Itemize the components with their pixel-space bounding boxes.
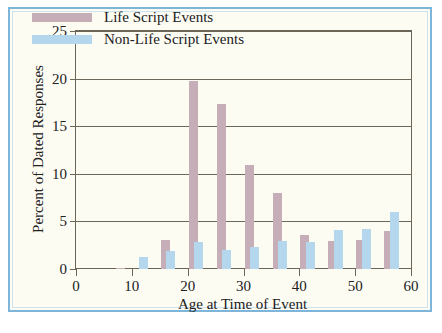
x-tick-label-60: 60	[404, 278, 419, 295]
legend-label-life: Life Script Events	[104, 9, 213, 26]
x-tick-10	[132, 269, 133, 276]
y-tick-label-0: 0	[60, 261, 68, 278]
legend-label-nonlife: Non-Life Script Events	[104, 31, 244, 48]
y-tick-10	[70, 174, 76, 175]
y-axis-title: Percent of Dated Responses	[30, 49, 47, 249]
legend-swatch-icon-life	[32, 13, 92, 22]
x-tick-30	[244, 269, 245, 276]
x-tick-label-50: 50	[348, 278, 363, 295]
legend: Life Script Events Non-Life Script Event…	[32, 6, 244, 50]
legend-swatch-icon-nonlife	[32, 35, 92, 44]
gridline-y-20	[76, 79, 411, 80]
x-tick-label-0: 0	[72, 278, 80, 295]
x-tick-60	[411, 269, 412, 276]
bar-life-age-21	[189, 81, 198, 269]
x-tick-label-20: 20	[180, 278, 195, 295]
bar-nonlife-age-27	[222, 250, 231, 269]
y-tick-15	[70, 126, 76, 127]
bar-nonlife-age-22	[194, 242, 203, 269]
gridline-y-10	[76, 174, 411, 175]
x-tick-0	[76, 269, 77, 276]
gridline-y-5	[76, 221, 411, 222]
bar-nonlife-age-52	[362, 229, 371, 269]
x-tick-label-40: 40	[292, 278, 307, 295]
bar-life-age-26	[217, 104, 226, 269]
x-axis-title: Age at Time of Event	[75, 296, 410, 313]
x-tick-20	[188, 269, 189, 276]
y-tick-label-10: 10	[52, 165, 67, 182]
gridline-y-15	[76, 126, 411, 127]
bar-nonlife-age-17	[166, 251, 175, 269]
y-tick-20	[70, 79, 76, 80]
legend-item-life-script-events: Life Script Events	[32, 6, 244, 28]
legend-item-non-life-script-events: Non-Life Script Events	[32, 28, 244, 50]
x-tick-50	[355, 269, 356, 276]
x-tick-40	[299, 269, 300, 276]
bar-nonlife-age-12	[139, 257, 148, 269]
y-tick-label-5: 5	[60, 213, 68, 230]
bar-nonlife-age-42	[306, 242, 315, 269]
bar-life-age-8	[116, 268, 125, 269]
x-tick-label-30: 30	[236, 278, 251, 295]
bar-nonlife-age-47	[334, 230, 343, 269]
y-tick-label-20: 20	[52, 70, 67, 87]
y-tick-label-15: 15	[52, 118, 67, 135]
figure-container: 0510152025 0102030405060 Percent of Date…	[0, 0, 442, 333]
bar-nonlife-age-57	[390, 212, 399, 269]
bar-nonlife-age-32	[250, 247, 259, 269]
x-tick-label-10: 10	[124, 278, 139, 295]
bar-nonlife-age-37	[278, 241, 287, 269]
plot-area: 0510152025 0102030405060	[75, 30, 412, 269]
y-tick-5	[70, 221, 76, 222]
